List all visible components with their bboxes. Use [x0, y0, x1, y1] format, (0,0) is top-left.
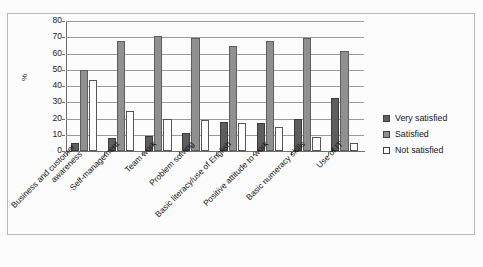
y-axis-tick-label: 20: [53, 114, 62, 123]
bar[interactable]: [275, 127, 283, 151]
bar[interactable]: [191, 38, 199, 151]
y-axis-tick-mark: [62, 86, 65, 87]
y-axis-tick-labels: 01020304050607080: [40, 21, 62, 151]
bar-group: [252, 21, 289, 151]
legend-swatch-icon: [383, 147, 390, 154]
y-axis-title: %: [20, 74, 29, 81]
bar[interactable]: [201, 120, 209, 151]
y-axis-tick-mark: [62, 102, 65, 103]
bar-group: [215, 21, 252, 151]
bar[interactable]: [266, 41, 274, 152]
legend-item[interactable]: Not satisfied: [383, 145, 475, 155]
bar-group: [103, 21, 140, 151]
bar[interactable]: [229, 46, 237, 151]
bar-group: [141, 21, 178, 151]
y-axis-tick-label: 60: [53, 49, 62, 58]
bar-group: [327, 21, 364, 151]
bar[interactable]: [163, 119, 171, 152]
bar[interactable]: [303, 38, 311, 151]
chart-legend: Very satisfiedSatisfiedNot satisfied: [383, 113, 475, 161]
y-axis-tick-mark: [62, 21, 65, 22]
legend-item[interactable]: Satisfied: [383, 129, 475, 139]
y-axis-tick-label: 40: [53, 81, 62, 90]
y-axis-tick-mark: [62, 54, 65, 55]
legend-label: Satisfied: [395, 129, 429, 139]
chart-figure: % 01020304050607080 Business and custome…: [0, 0, 483, 267]
bar[interactable]: [312, 137, 320, 151]
y-axis-tick-label: 70: [53, 32, 62, 41]
y-axis-tick-mark: [62, 70, 65, 71]
legend-swatch-icon: [383, 115, 390, 122]
y-axis-tick-mark: [62, 119, 65, 120]
y-axis-tick-label: 10: [53, 130, 62, 139]
y-axis-tick-label: 50: [53, 65, 62, 74]
y-axis-tick-mark: [62, 135, 65, 136]
bar[interactable]: [340, 51, 348, 151]
bar-group: [66, 21, 103, 151]
bar[interactable]: [154, 36, 162, 151]
legend-item[interactable]: Very satisfied: [383, 113, 475, 123]
legend-swatch-icon: [383, 131, 390, 138]
bar[interactable]: [117, 41, 125, 152]
bar[interactable]: [89, 80, 97, 152]
bar[interactable]: [80, 70, 88, 151]
y-axis-tick-mark: [62, 37, 65, 38]
plot-area: [66, 21, 364, 151]
bar[interactable]: [126, 111, 134, 151]
y-axis-tick-label: 30: [53, 97, 62, 106]
legend-label: Not satisfied: [395, 145, 443, 155]
legend-label: Very satisfied: [395, 113, 447, 123]
bar[interactable]: [238, 123, 246, 151]
bar-group: [178, 21, 215, 151]
y-axis-tick-label: 80: [53, 16, 62, 25]
bar-group: [290, 21, 327, 151]
bar[interactable]: [350, 143, 358, 151]
